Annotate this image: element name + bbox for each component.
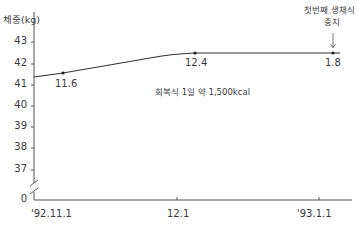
annotation-stop-line2: 중지 — [324, 15, 340, 27]
data-label-1-8: 1.8 — [325, 57, 341, 68]
y-tick-label: 43 — [3, 35, 27, 46]
annotation-stop-line1: 첫번째 생채식 — [304, 3, 355, 15]
y-tick-label: 40 — [3, 99, 27, 110]
x-tick-label: '92.11.1 — [31, 208, 72, 219]
data-point-1-8 — [331, 51, 334, 54]
x-tick-label: 12.1 — [167, 208, 189, 219]
data-label-11-6: 11.6 — [55, 78, 77, 89]
data-point-12-4 — [193, 51, 196, 54]
x-tick-label: '93.1.1 — [297, 208, 332, 219]
y-axis-label: 체중(kg) — [3, 12, 40, 26]
data-point-11-6 — [61, 71, 64, 74]
y-tick-label: 37 — [3, 163, 27, 174]
y-tick-label: 38 — [3, 141, 27, 152]
annotation-recovery-diet: 회복식 1일 약 1,500kcal — [155, 85, 250, 97]
y-tick-label: 42 — [3, 57, 27, 68]
data-label-12-4: 12.4 — [185, 57, 207, 68]
y-tick-label: 0 — [3, 193, 27, 204]
y-tick-label: 41 — [3, 78, 27, 89]
y-tick-label: 39 — [3, 120, 27, 131]
weight-line-chart — [0, 0, 358, 230]
